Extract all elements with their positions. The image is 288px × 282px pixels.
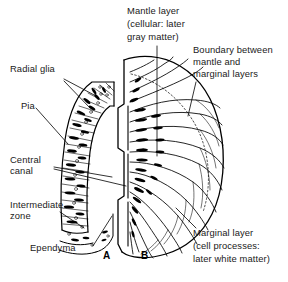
label-radial-glia: Radial glia	[10, 64, 55, 75]
label-boundary-line1: Boundary between	[193, 45, 273, 56]
label-marginal-layer-line2: (cell processes:	[193, 241, 260, 252]
label-boundary-line3: marginal layers	[193, 69, 258, 80]
panel-label-a: A	[103, 250, 110, 261]
label-ependyma: Ependyma	[30, 243, 76, 254]
label-central-canal-line1: Central	[10, 155, 41, 166]
label-boundary-line2: mantle and	[193, 57, 240, 68]
label-intermediate-zone-line1: Intermediate	[10, 200, 63, 211]
leader-lines	[36, 46, 196, 246]
label-pia: Pia	[21, 101, 35, 112]
label-marginal-layer-line3: later white matter)	[193, 254, 270, 265]
panel-a-structure	[59, 82, 114, 254]
figure-canvas: Radial glia Pia Central canal Intermedia…	[0, 0, 288, 282]
label-mantle-layer-line1: Mantle layer	[127, 6, 179, 17]
panel-label-b: B	[141, 250, 148, 261]
label-mantle-layer-line2: (cellular: later	[127, 19, 185, 30]
label-marginal-layer-line1: Marginal layer	[193, 228, 253, 239]
label-central-canal-line2: canal	[10, 166, 33, 177]
label-mantle-layer-line3: gray matter)	[127, 32, 179, 43]
label-intermediate-zone-line2: zone	[10, 211, 31, 222]
